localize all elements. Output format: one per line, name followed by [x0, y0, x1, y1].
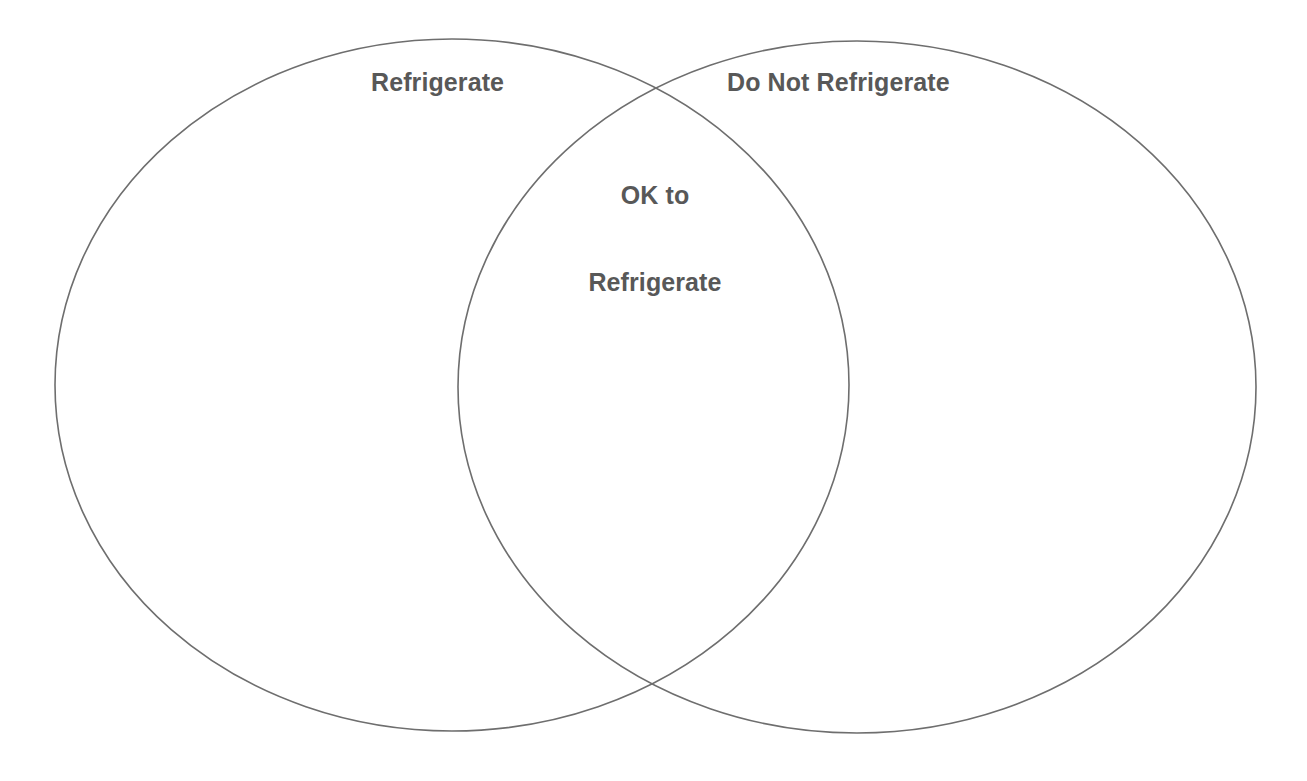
- venn-diagram-canvas: [0, 0, 1307, 781]
- venn-label-intersection: OK to Refrigerate: [575, 123, 735, 355]
- venn-label-intersection-line-1: OK to: [575, 181, 735, 210]
- venn-label-left: Refrigerate: [371, 68, 504, 97]
- venn-diagram-page: Refrigerate Do Not Refrigerate OK to Ref…: [0, 0, 1307, 781]
- venn-label-right: Do Not Refrigerate: [727, 68, 950, 97]
- venn-label-intersection-line-2: Refrigerate: [575, 268, 735, 297]
